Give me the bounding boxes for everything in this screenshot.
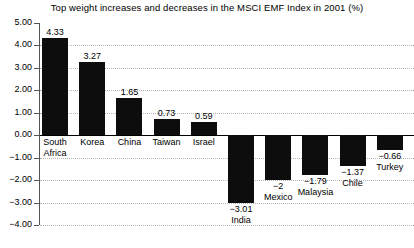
bar-value-label: 3.27: [68, 51, 116, 61]
category-label-line: Turkey: [366, 162, 414, 173]
bar: [377, 135, 403, 150]
bar: [265, 135, 291, 180]
y-axis-tick: [34, 203, 39, 204]
bar: [116, 98, 142, 135]
category-label-line: Israel: [180, 137, 228, 148]
y-axis-tick: [34, 180, 39, 181]
bar: [302, 135, 328, 175]
bar-value-label: 4.33: [31, 27, 79, 37]
chart-title: Top weight increases and decreases in th…: [0, 2, 414, 13]
bar-value-label: 1.65: [105, 87, 153, 97]
gridline: [40, 45, 414, 46]
y-axis-tick: [34, 225, 39, 226]
bar: [154, 119, 180, 135]
y-axis-tick-label: 3.00: [0, 62, 32, 72]
category-label-line: India: [217, 215, 265, 226]
bar-category-label: Malaysia: [291, 187, 339, 198]
y-axis-tick-label: 2.00: [0, 84, 32, 94]
y-axis-tick-label: 4.00: [0, 39, 32, 49]
bar-value-label: −3.01: [217, 204, 265, 214]
y-axis-tick: [34, 135, 39, 136]
y-axis-tick-label: 0.00: [0, 129, 32, 139]
y-axis-tick-label: −4.00: [0, 219, 32, 229]
bar-category-label: India: [217, 215, 265, 226]
y-axis-tick-label: −1.00: [0, 152, 32, 162]
bar-value-label: 0.59: [180, 111, 228, 121]
plot-area: 4.33SouthAfrica3.27Korea1.65China0.73Tai…: [40, 23, 414, 225]
y-axis-tick: [34, 23, 39, 24]
y-axis-tick: [34, 45, 39, 46]
bar: [228, 135, 254, 203]
category-label-line: Malaysia: [291, 187, 339, 198]
bar-value-label: −0.66: [366, 151, 414, 161]
y-axis-tick: [34, 68, 39, 69]
category-label-line: Africa: [31, 148, 79, 159]
bar-category-label: Israel: [180, 137, 228, 148]
bar: [42, 38, 68, 135]
y-axis-tick: [34, 90, 39, 91]
y-axis-tick-label: −3.00: [0, 197, 32, 207]
bar-category-label: Turkey: [366, 162, 414, 173]
bar: [191, 122, 217, 135]
y-axis-tick-label: 5.00: [0, 17, 32, 27]
y-axis-tick-label: −2.00: [0, 174, 32, 184]
category-label-line: Chile: [329, 178, 377, 189]
chart-container: Top weight increases and decreases in th…: [0, 0, 414, 248]
bar: [340, 135, 366, 166]
y-axis-tick: [34, 113, 39, 114]
y-axis-tick-label: 1.00: [0, 107, 32, 117]
bar-category-label: Chile: [329, 178, 377, 189]
bar: [79, 62, 105, 135]
